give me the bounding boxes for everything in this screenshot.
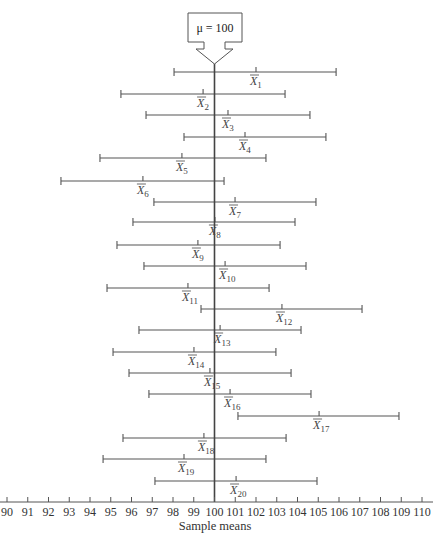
sample-mean-label: X1 <box>249 74 262 90</box>
x-tick-label: 103 <box>268 505 286 519</box>
confidence-interval: X1 <box>174 67 336 90</box>
sample-mean-label: X18 <box>197 440 215 456</box>
x-tick-label: 107 <box>351 505 369 519</box>
x-tick-label: 99 <box>188 505 200 519</box>
confidence-interval-chart: X1X2X3X4X5X6X7X8X9X10X11X12X13X14X15X16X… <box>0 0 447 542</box>
confidence-interval: X3 <box>146 110 310 133</box>
x-tick-label: 106 <box>330 505 348 519</box>
x-tick-label: 104 <box>289 505 307 519</box>
sample-mean-label: X2 <box>196 96 209 112</box>
x-tick-label: 92 <box>43 505 55 519</box>
x-tick-label: 95 <box>105 505 117 519</box>
confidence-interval: X12 <box>201 304 362 327</box>
sample-mean-label: X16 <box>223 396 241 412</box>
x-tick-label: 101 <box>226 505 244 519</box>
sample-mean-label: X15 <box>203 375 221 391</box>
confidence-interval: X10 <box>144 261 306 284</box>
sample-mean-label: X6 <box>136 183 149 199</box>
sample-mean-label: X19 <box>177 461 195 477</box>
x-tick-label: 94 <box>84 505 96 519</box>
confidence-interval: X2 <box>121 89 285 112</box>
confidence-interval: X4 <box>184 132 326 155</box>
sample-mean-label: X4 <box>238 139 251 155</box>
x-tick-label: 98 <box>167 505 179 519</box>
confidence-interval: X6 <box>61 176 224 199</box>
sample-mean-label: X3 <box>221 117 234 133</box>
sample-mean-label: X14 <box>187 354 205 370</box>
x-axis: 9091929394959697989910010110210310410510… <box>0 497 433 533</box>
x-tick-label: 110 <box>413 505 431 519</box>
interval-group: X1X2X3X4X5X6X7X8X9X10X11X12X13X14X15X16X… <box>61 67 399 499</box>
sample-mean-label: X10 <box>218 268 236 284</box>
sample-mean-label: X7 <box>228 204 241 220</box>
sample-mean-label: X5 <box>175 160 188 176</box>
x-tick-label: 91 <box>22 505 34 519</box>
confidence-interval: X7 <box>154 197 316 220</box>
confidence-interval: X20 <box>155 476 317 499</box>
confidence-interval: X18 <box>123 433 286 456</box>
x-tick-label: 102 <box>247 505 265 519</box>
confidence-interval: X11 <box>107 283 269 306</box>
confidence-interval: X9 <box>117 240 280 263</box>
sample-mean-label: X9 <box>191 247 204 263</box>
confidence-interval: X5 <box>100 153 266 176</box>
x-tick-label: 109 <box>392 505 410 519</box>
x-tick-label: 100 <box>206 505 224 519</box>
confidence-interval: X14 <box>113 347 276 370</box>
confidence-interval: X13 <box>139 325 301 348</box>
x-tick-label: 108 <box>372 505 390 519</box>
x-tick-label: 105 <box>309 505 327 519</box>
confidence-interval: X19 <box>103 454 266 477</box>
x-tick-label: 93 <box>63 505 75 519</box>
sample-mean-label: X13 <box>213 332 231 348</box>
x-tick-label: 96 <box>126 505 138 519</box>
mu-annotation: μ = 100 <box>196 21 233 35</box>
sample-mean-label: X11 <box>181 290 198 306</box>
x-tick-label: 97 <box>146 505 158 519</box>
sample-mean-label: X20 <box>229 483 247 499</box>
confidence-interval: X16 <box>149 389 311 412</box>
confidence-interval: X17 <box>238 411 399 434</box>
x-axis-title: Sample means <box>179 519 252 533</box>
confidence-interval: X15 <box>129 368 291 391</box>
x-tick-label: 90 <box>1 505 13 519</box>
x-axis-ticks: 9091929394959697989910010110210310410510… <box>1 497 431 519</box>
sample-mean-label: X17 <box>312 418 330 434</box>
sample-mean-label: X12 <box>275 311 292 327</box>
